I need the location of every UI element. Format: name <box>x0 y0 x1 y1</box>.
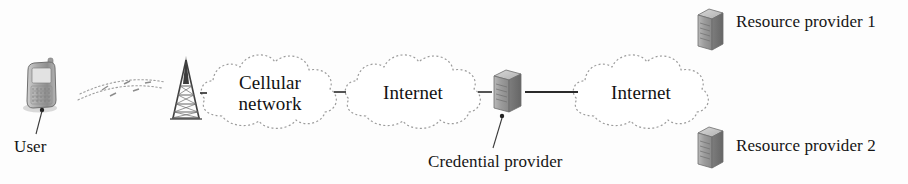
credential-provider-callout-leader <box>493 114 504 148</box>
wireless-signal-icon <box>78 80 165 100</box>
internet-right-label: Internet <box>588 82 694 103</box>
resource-provider-2-server-icon <box>698 127 723 168</box>
cellular-network-label: Cellular network <box>216 72 324 114</box>
network-diagram: Cellular network Internet Internet User … <box>0 0 908 184</box>
credential-provider-server-icon <box>494 70 521 112</box>
cellular-network-label-line2: network <box>239 93 302 114</box>
internet-left-label: Internet <box>360 82 466 103</box>
resource-provider-1-server-icon <box>698 9 723 50</box>
mobile-phone-icon <box>23 58 57 113</box>
cellular-network-label-line1: Cellular <box>239 72 301 93</box>
resource-provider-2-label: Resource provider 2 <box>736 136 876 156</box>
resource-provider-1-label: Resource provider 1 <box>736 12 876 32</box>
credential-provider-label: Credential provider <box>428 152 563 172</box>
user-label: User <box>14 137 47 157</box>
cell-tower-icon <box>170 56 202 119</box>
